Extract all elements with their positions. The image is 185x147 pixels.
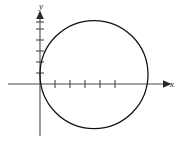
x-axis-label: x [169,79,174,89]
y-axis-label: y [38,1,43,11]
plot-figure: x y [0,0,185,147]
plot-canvas: x y [0,0,185,147]
y-axis-arrow-icon [36,11,44,20]
circle-curve [40,21,148,129]
